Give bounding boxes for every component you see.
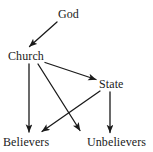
- node-label-unbelievers: Unbelievers: [87, 136, 146, 148]
- edge-church-to-state: [45, 63, 96, 80]
- node-label-god: God: [58, 8, 79, 20]
- node-label-state: State: [99, 78, 124, 90]
- node-label-church: Church: [8, 50, 44, 62]
- node-label-believers: Believers: [3, 136, 49, 148]
- diagram-edges-layer: [0, 0, 153, 152]
- edge-state-to-believers: [42, 91, 100, 132]
- edge-god-to-church: [30, 22, 58, 47]
- edge-church-to-unbelievers: [38, 64, 80, 131]
- diagram-canvas: God Church State Believers Unbelievers: [0, 0, 153, 152]
